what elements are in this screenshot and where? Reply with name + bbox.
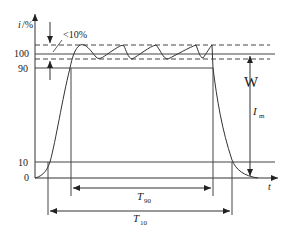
- im-label-sub: m: [259, 112, 265, 120]
- t10-label-var: T: [133, 212, 140, 224]
- tick-0: 0: [24, 172, 29, 183]
- tick-100: 100: [14, 48, 29, 59]
- im-label-var: I: [252, 105, 258, 117]
- y-axis-label-unit: /%: [22, 19, 33, 30]
- current-waveform: [35, 45, 258, 178]
- t10-label-sub: 10: [140, 219, 148, 227]
- x-axis-label: t: [268, 181, 271, 192]
- ripple-label: <10%: [63, 29, 87, 40]
- ripple-leader-line: [53, 40, 62, 52]
- current-waveform-diagram: i /% 100 90 10 0 <10% t W I m T 90 T 10: [0, 0, 293, 238]
- t90-label-sub: 90: [144, 197, 152, 205]
- tick-10: 10: [18, 157, 28, 168]
- t90-label-var: T: [137, 190, 144, 202]
- y-axis-label-var: i: [18, 19, 21, 30]
- tick-90: 90: [18, 63, 28, 74]
- w-marker: W: [244, 74, 259, 90]
